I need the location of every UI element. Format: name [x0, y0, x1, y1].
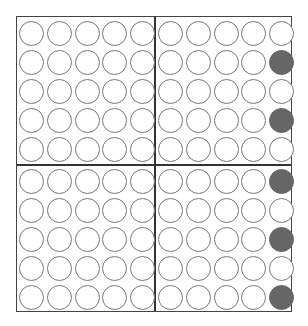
empty-circle [19, 50, 44, 75]
empty-circle [102, 137, 127, 162]
empty-circle [186, 256, 211, 281]
empty-circle [130, 198, 155, 223]
empty-circle [130, 285, 155, 310]
empty-circle [241, 198, 266, 223]
filled-circle [269, 285, 294, 310]
empty-circle [186, 227, 211, 252]
empty-circle [158, 108, 183, 133]
empty-circle [130, 50, 155, 75]
empty-circle [186, 108, 211, 133]
empty-circle [130, 169, 155, 194]
empty-circle [158, 285, 183, 310]
empty-circle [214, 169, 239, 194]
empty-circle [214, 227, 239, 252]
empty-circle [158, 169, 183, 194]
empty-circle [241, 108, 266, 133]
empty-circle [47, 227, 72, 252]
empty-circle [241, 169, 266, 194]
empty-circle [75, 79, 100, 104]
empty-circle [269, 256, 294, 281]
empty-circle [75, 108, 100, 133]
empty-circle [158, 50, 183, 75]
empty-circle [19, 21, 44, 46]
filled-circle [269, 108, 294, 133]
empty-circle [158, 79, 183, 104]
empty-circle [102, 21, 127, 46]
empty-circle [186, 169, 211, 194]
empty-circle [186, 50, 211, 75]
empty-circle [269, 198, 294, 223]
empty-circle [47, 285, 72, 310]
empty-circle [241, 256, 266, 281]
empty-circle [19, 256, 44, 281]
empty-circle [102, 227, 127, 252]
empty-circle [19, 285, 44, 310]
empty-circle [269, 21, 294, 46]
empty-circle [214, 137, 239, 162]
empty-circle [130, 256, 155, 281]
empty-circle [186, 137, 211, 162]
empty-circle [47, 21, 72, 46]
empty-circle [102, 169, 127, 194]
empty-circle [102, 285, 127, 310]
empty-circle [241, 227, 266, 252]
empty-circle [75, 285, 100, 310]
empty-circle [19, 169, 44, 194]
empty-circle [130, 227, 155, 252]
empty-circle [241, 137, 266, 162]
empty-circle [75, 137, 100, 162]
empty-circle [214, 79, 239, 104]
filled-circle [269, 169, 294, 194]
empty-circle [214, 21, 239, 46]
empty-circle [75, 50, 100, 75]
empty-circle [47, 169, 72, 194]
empty-circle [214, 256, 239, 281]
horizontal-divider [17, 164, 291, 166]
empty-circle [75, 227, 100, 252]
empty-circle [47, 137, 72, 162]
empty-circle [75, 169, 100, 194]
empty-circle [102, 79, 127, 104]
empty-circle [186, 21, 211, 46]
empty-circle [186, 285, 211, 310]
empty-circle [269, 79, 294, 104]
empty-circle [241, 50, 266, 75]
empty-circle [269, 137, 294, 162]
empty-circle [75, 21, 100, 46]
empty-circle [158, 227, 183, 252]
filled-circle [269, 50, 294, 75]
empty-circle [47, 79, 72, 104]
empty-circle [19, 108, 44, 133]
empty-circle [102, 50, 127, 75]
empty-circle [158, 198, 183, 223]
empty-circle [47, 108, 72, 133]
empty-circle [19, 79, 44, 104]
empty-circle [19, 227, 44, 252]
empty-circle [102, 108, 127, 133]
empty-circle [241, 21, 266, 46]
empty-circle [75, 256, 100, 281]
empty-circle [130, 108, 155, 133]
empty-circle [130, 21, 155, 46]
empty-circle [19, 198, 44, 223]
empty-circle [241, 79, 266, 104]
empty-circle [47, 256, 72, 281]
empty-circle [47, 198, 72, 223]
filled-circle [269, 227, 294, 252]
empty-circle [158, 21, 183, 46]
empty-circle [186, 79, 211, 104]
empty-circle [158, 137, 183, 162]
empty-circle [102, 256, 127, 281]
empty-circle [102, 198, 127, 223]
empty-circle [214, 285, 239, 310]
empty-circle [214, 108, 239, 133]
empty-circle [130, 137, 155, 162]
empty-circle [75, 198, 100, 223]
empty-circle [47, 50, 72, 75]
empty-circle [186, 198, 211, 223]
empty-circle [19, 137, 44, 162]
empty-circle [130, 79, 155, 104]
empty-circle [158, 256, 183, 281]
empty-circle [214, 198, 239, 223]
ten-by-ten-grid [16, 16, 292, 312]
